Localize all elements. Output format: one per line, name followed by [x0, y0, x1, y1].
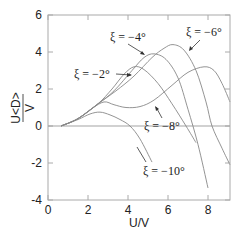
y-tick-label: 6 — [35, 8, 42, 22]
y-tick-label: -4 — [31, 193, 42, 207]
annotation-xi-minus-10: ξ = −10° — [143, 164, 185, 178]
arrow-xi-minus-10 — [137, 147, 146, 162]
y-axis-label-numerator: U<D> — [9, 92, 23, 123]
annotation-arrows — [116, 40, 200, 162]
annotation-xi-minus-8: ξ = −8° — [144, 119, 180, 133]
arrowhead-icon — [189, 46, 193, 51]
arrowhead-icon — [155, 106, 159, 111]
x-tick-label: 8 — [205, 203, 212, 217]
annotation-xi-minus-4: ξ = −4° — [110, 30, 146, 44]
line-chart: 02468-4-20246 U/V U<D> V ξ = −4° ξ = −6°… — [0, 0, 237, 231]
y-axis-label: U<D> V — [9, 92, 37, 123]
y-tick-label: -2 — [31, 156, 42, 170]
x-tick-label: 2 — [85, 203, 92, 217]
annotation-xi-minus-6: ξ = −6° — [186, 25, 222, 39]
annotation-xi-minus-2: ξ = −2° — [74, 67, 110, 81]
y-axis-label-denominator: V — [23, 104, 37, 112]
y-tick-label: 0 — [35, 119, 42, 133]
x-tick-label: 6 — [165, 203, 172, 217]
y-tick-label: 2 — [35, 82, 42, 96]
x-tick-label: 0 — [45, 203, 52, 217]
x-axis-label: U/V — [129, 216, 149, 230]
series-curve — [61, 112, 152, 162]
y-tick-label: 4 — [35, 45, 42, 59]
x-tick-label: 4 — [125, 203, 132, 217]
